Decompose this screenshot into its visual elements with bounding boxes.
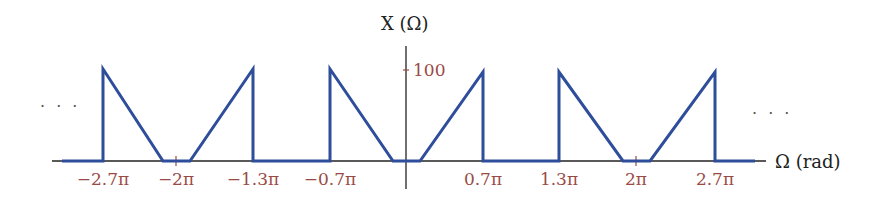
x-tick-label: −0.7π	[304, 169, 356, 189]
x-tick-label: 1.3π	[540, 169, 578, 189]
x-tick-label: −1.3π	[227, 169, 279, 189]
x-tick-label: −2π	[158, 169, 194, 189]
spectrum-chart: 100 X (Ω) Ω (rad) · · · · · · −2.7π −2π …	[0, 0, 883, 198]
signal-curve	[62, 69, 755, 161]
x-tick-label: −2.7π	[77, 169, 129, 189]
x-tick-label: 2π	[625, 169, 647, 189]
y-axis-label: X (Ω)	[381, 13, 429, 34]
x-axis-label: Ω (rad)	[775, 151, 841, 172]
ellipsis-left: · · ·	[40, 97, 80, 116]
ellipsis-right: · · ·	[752, 104, 792, 123]
x-tick-label: 0.7π	[464, 169, 502, 189]
x-tick-label: 2.7π	[696, 169, 734, 189]
y-tick-label-100: 100	[413, 60, 445, 80]
